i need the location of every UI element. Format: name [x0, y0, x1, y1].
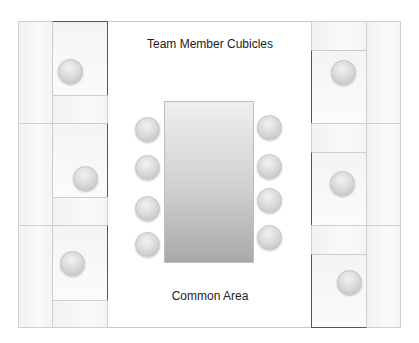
left-cubicle-1-chair [58, 59, 83, 84]
table-chair-left-4 [135, 232, 160, 257]
right-wall-strip-2 [366, 123, 401, 226]
left-wall-strip-2 [18, 123, 53, 226]
right-cubicle-1-chair [331, 60, 356, 85]
table-chair-right-4 [257, 225, 282, 250]
table-chair-left-1 [135, 117, 160, 142]
left-cubicle-3-chair [60, 251, 85, 276]
left-cubicle-2-aisle [52, 197, 108, 226]
common-area-label: Common Area [150, 289, 270, 303]
table-chair-left-2 [135, 155, 160, 180]
right-wall-strip-1 [366, 21, 401, 124]
table-chair-left-3 [135, 196, 160, 221]
right-cubicle-1-aisle [311, 21, 367, 51]
right-cubicle-3-chair [337, 270, 362, 295]
right-cubicle-2-chair [330, 171, 355, 196]
table-chair-right-2 [257, 154, 282, 179]
conference-table [164, 101, 254, 263]
left-wall-strip-3 [18, 225, 53, 328]
right-wall-strip-3 [366, 225, 401, 328]
left-wall-strip-1 [18, 21, 53, 124]
left-cubicle-1-aisle [52, 95, 108, 124]
left-cubicle-2-chair [73, 166, 98, 191]
right-cubicle-2-aisle [311, 123, 367, 153]
cubicles-label: Team Member Cubicles [130, 37, 290, 51]
table-chair-right-3 [257, 188, 282, 213]
table-chair-right-1 [257, 115, 282, 140]
right-cubicle-3-aisle [311, 225, 367, 255]
left-cubicle-1[interactable] [52, 21, 108, 96]
left-cubicle-3-aisle [52, 300, 108, 328]
